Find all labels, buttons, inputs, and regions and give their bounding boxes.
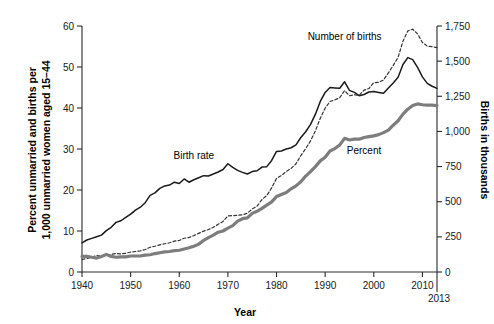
series-line-birth-rate <box>82 58 437 243</box>
y-axis-left-tick-label: 40 <box>63 103 75 114</box>
y-axis-right-tick-label: 1,750 <box>445 21 470 32</box>
y-axis-right-tick-label: 250 <box>445 231 462 242</box>
x-axis-tick-label: 1990 <box>314 280 337 291</box>
y-axis-right-tick-label: 0 <box>445 267 451 278</box>
y-axis-right-tick-label: 1,250 <box>445 91 470 102</box>
y-axis-right-title: Births in thousands <box>479 101 491 200</box>
x-axis-end-tick-label: 2013 <box>428 293 451 304</box>
y-axis-left-tick-label: 20 <box>63 185 75 196</box>
y-axis-left-title: Percent unmarried and births per 1,000 u… <box>26 60 52 239</box>
x-axis-tick-label: 1950 <box>120 280 143 291</box>
x-axis-tick-label: 1980 <box>265 280 288 291</box>
x-axis-tick-label: 2000 <box>363 280 386 291</box>
y-axis-left-tick-label: 10 <box>63 226 75 237</box>
y-axis-left-title-line1: Percent unmarried and births per <box>26 67 38 233</box>
y-axis-left-tick-label: 50 <box>63 62 75 73</box>
series-line-percent <box>82 104 437 258</box>
y-axis-right-tick-label: 1,000 <box>445 126 470 137</box>
axis-frame <box>82 26 437 272</box>
y-axis-right-tick-label: 750 <box>445 161 462 172</box>
y-axis-left-tick-label: 60 <box>63 21 75 32</box>
y-axis-left-tick-label: 30 <box>63 144 75 155</box>
annotation-layer: Birth rateNumber of birthsPercent <box>174 31 382 161</box>
birth-statistics-chart: Percent unmarried and births per 1,000 u… <box>0 0 494 324</box>
y-axis-left-title-line2: 1,000 unmarried women aged 15–44 <box>40 60 52 239</box>
series-label-number-of-births: Number of births <box>308 31 382 42</box>
x-axis-tick-label: 1970 <box>217 280 240 291</box>
y-axis-right-tick-label: 500 <box>445 196 462 207</box>
x-axis-tick-label: 1960 <box>168 280 191 291</box>
series-label-percent: Percent <box>347 145 382 156</box>
x-axis-title: Year <box>234 306 256 318</box>
x-axis-tick-label: 2010 <box>411 280 434 291</box>
x-axis-tick-label: 1940 <box>71 280 94 291</box>
axis-layer: 010203040506002505007501,0001,2501,5001,… <box>63 21 471 304</box>
y-axis-left-tick-label: 0 <box>68 267 74 278</box>
series-label-birth-rate: Birth rate <box>174 150 215 161</box>
series-line-number-of-births <box>82 29 437 259</box>
series-layer <box>82 29 437 259</box>
chart-canvas: Percent unmarried and births per 1,000 u… <box>0 0 494 324</box>
y-axis-right-tick-label: 1,500 <box>445 56 470 67</box>
